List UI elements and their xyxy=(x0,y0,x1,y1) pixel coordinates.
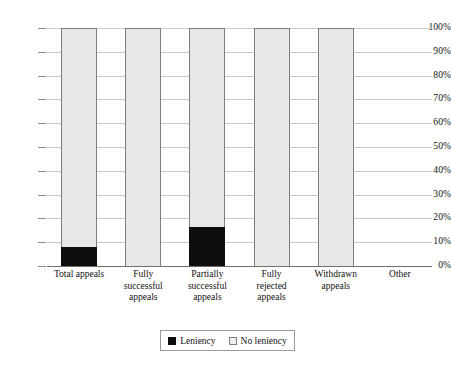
x-axis-label-line: Fully xyxy=(240,269,304,281)
y-axis-tick-mark xyxy=(38,52,46,53)
legend-label: Leniency xyxy=(180,336,215,346)
x-axis-label-line: Other xyxy=(368,269,432,281)
y-axis-tick-mark xyxy=(38,266,46,267)
x-axis-category-label: Partiallysuccessfulappeals xyxy=(175,269,239,304)
gridline xyxy=(47,242,432,243)
x-axis-line xyxy=(47,266,432,267)
gridline xyxy=(47,52,432,53)
x-axis-label-line: appeals xyxy=(175,292,239,304)
y-axis-tick-mark xyxy=(38,218,46,219)
bar-segment-leniency xyxy=(61,247,97,266)
x-axis-label-line: successful xyxy=(111,281,175,293)
x-axis-label-line: Withdrawn xyxy=(304,269,368,281)
x-axis-label-line: appeals xyxy=(240,292,304,304)
bar-group xyxy=(61,28,97,266)
x-axis-labels: Total appealsFullysuccessfulappealsParti… xyxy=(47,269,432,319)
x-axis-category-label: Other xyxy=(368,269,432,281)
legend-swatch-no-leniency-icon xyxy=(229,337,237,345)
y-axis-tick-mark xyxy=(38,171,46,172)
gridline xyxy=(47,218,432,219)
bar-group xyxy=(254,28,290,266)
bar-segment-leniency xyxy=(189,227,225,266)
x-axis-category-label: Fullyrejectedappeals xyxy=(240,269,304,304)
y-axis-tick-mark xyxy=(38,76,46,77)
gridline xyxy=(47,147,432,148)
x-axis-label-line: Total appeals xyxy=(47,269,111,281)
legend-label: No leniency xyxy=(241,336,287,346)
bar-group xyxy=(189,28,225,266)
x-axis-label-line: appeals xyxy=(111,292,175,304)
bar-group xyxy=(125,28,161,266)
gridline xyxy=(47,171,432,172)
stacked-bar-chart: 100%90%80%70%60%50%40%30%20%10%0% Total … xyxy=(0,0,451,366)
bar-group xyxy=(318,28,354,266)
x-axis-label-line: appeals xyxy=(304,281,368,293)
y-axis-tick-mark xyxy=(38,195,46,196)
y-axis-tick-mark xyxy=(38,28,46,29)
gridline xyxy=(47,195,432,196)
legend-item: No leniency xyxy=(229,336,287,346)
bar-segment-no-leniency xyxy=(318,28,354,266)
bar-segment-no-leniency xyxy=(125,28,161,266)
legend-item: Leniency xyxy=(168,336,215,346)
gridline xyxy=(47,123,432,124)
plot-area xyxy=(47,28,432,266)
y-axis-tick-mark xyxy=(38,147,46,148)
y-axis-tick-mark xyxy=(38,123,46,124)
bar-segment-no-leniency xyxy=(254,28,290,266)
x-axis-label-line: Fully xyxy=(111,269,175,281)
x-axis-category-label: Withdrawnappeals xyxy=(304,269,368,292)
x-axis-category-label: Fullysuccessfulappeals xyxy=(111,269,175,304)
chart-legend: LeniencyNo leniency xyxy=(160,330,295,351)
legend-swatch-leniency-icon xyxy=(168,337,176,345)
gridline xyxy=(47,28,432,29)
gridline xyxy=(47,99,432,100)
x-axis-category-label: Total appeals xyxy=(47,269,111,281)
y-axis-tick-mark xyxy=(38,242,46,243)
x-axis-label-line: rejected xyxy=(240,281,304,293)
bar-segment-no-leniency xyxy=(61,28,97,247)
y-axis-tick-mark xyxy=(38,99,46,100)
gridline xyxy=(47,76,432,77)
x-axis-label-line: Partially xyxy=(175,269,239,281)
x-axis-label-line: successful xyxy=(175,281,239,293)
bar-segment-no-leniency xyxy=(189,28,225,227)
